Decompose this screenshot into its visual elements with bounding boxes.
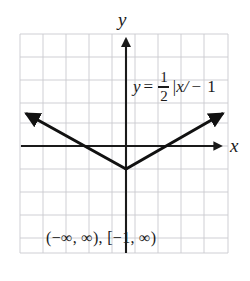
fraction-denominator: 2 — [158, 88, 170, 104]
domain-range-answer: (−∞, ∞), [−1, ∞) — [46, 229, 156, 247]
function-curve — [27, 114, 222, 169]
fraction-numerator: 1 — [158, 70, 170, 86]
fraction-one-half: 1 2 — [158, 70, 170, 104]
equation-minus-sign: − — [192, 77, 202, 97]
absolute-value-expression: |x/ — [172, 77, 189, 97]
x-axis-label: x — [230, 136, 238, 155]
y-axis-label: y — [118, 10, 126, 29]
equation-constant: 1 — [207, 77, 216, 97]
graph-figure: y x y = 1 2 |x/ − 1 (−∞, ∞), [−1, ∞) — [0, 0, 250, 281]
equation-equals: = — [144, 77, 154, 97]
grid-lines — [20, 34, 228, 253]
equation-annotation: y = 1 2 |x/ − 1 — [133, 70, 219, 104]
equation-lhs: y — [133, 77, 141, 97]
